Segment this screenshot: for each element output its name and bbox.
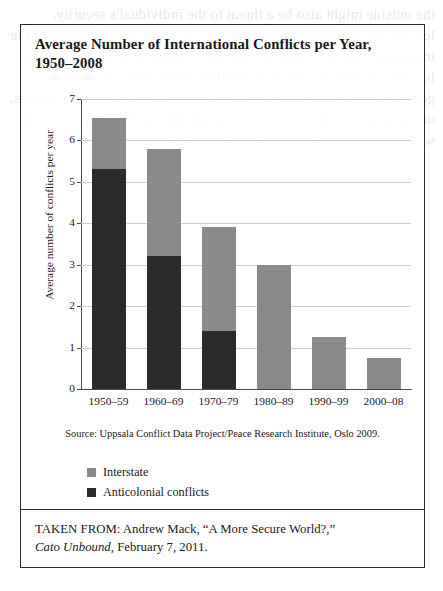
attribution-line-2: , February 7, 2011. <box>111 540 208 554</box>
y-tick-label-0: 0 <box>57 383 75 394</box>
figure-title: Average Number of International Conflict… <box>35 35 405 73</box>
figure-box: Average Number of International Conflict… <box>20 24 425 568</box>
chart-legend: Interstate Anticolonial conflicts <box>87 465 209 505</box>
bar-segment-interstate <box>367 358 401 389</box>
plot-region: 01234567 1950–591960–691970–791980–89199… <box>81 99 411 389</box>
y-tick-label-7: 7 <box>57 93 75 104</box>
legend-swatch-interstate <box>87 468 96 477</box>
y-tick-label-1: 1 <box>57 342 75 353</box>
bar-1960-69 <box>147 149 181 389</box>
bar-2000-08 <box>367 358 401 389</box>
bar-segment-anticolonial <box>92 169 126 389</box>
bar-1970-79 <box>202 227 236 389</box>
attribution-publication: Cato Unbound <box>35 540 111 554</box>
bar-1990-99 <box>312 337 346 389</box>
bar-segment-interstate <box>202 227 236 331</box>
bar-1980-89 <box>257 265 291 389</box>
x-tick-label-2000-08: 2000–08 <box>349 395 419 407</box>
source-note: Source: Uppsala Conflict Data Project/Pe… <box>21 428 424 439</box>
y-tick-label-6: 6 <box>57 134 75 145</box>
bar-segment-interstate <box>312 337 346 389</box>
y-tick-label-2: 2 <box>57 300 75 311</box>
bar-segment-interstate <box>147 149 181 257</box>
x-axis-line <box>81 389 412 390</box>
legend-label-interstate: Interstate <box>103 465 148 480</box>
bar-segment-interstate <box>92 118 126 170</box>
legend-swatch-anticolonial <box>87 488 96 497</box>
y-axis-label: Average number of conflicts per year <box>43 125 55 305</box>
bar-segment-interstate <box>257 265 291 389</box>
bar-segment-anticolonial <box>147 256 181 389</box>
y-tick-mark-0 <box>77 389 81 390</box>
attribution-line-1: TAKEN FROM: Andrew Mack, “A More Secure … <box>35 522 335 536</box>
bar-series-layer <box>81 99 411 389</box>
legend-item-anticolonial: Anticolonial conflicts <box>87 485 209 500</box>
attribution: TAKEN FROM: Andrew Mack, “A More Secure … <box>35 520 410 556</box>
chart-area: Average number of conflicts per year 012… <box>21 91 424 431</box>
y-tick-label-3: 3 <box>57 259 75 270</box>
section-divider <box>21 509 424 510</box>
legend-item-interstate: Interstate <box>87 465 209 480</box>
legend-label-anticolonial: Anticolonial conflicts <box>103 485 209 500</box>
bar-segment-anticolonial <box>202 331 236 389</box>
y-tick-label-4: 4 <box>57 217 75 228</box>
bar-1950-59 <box>92 118 126 389</box>
y-tick-label-5: 5 <box>57 176 75 187</box>
